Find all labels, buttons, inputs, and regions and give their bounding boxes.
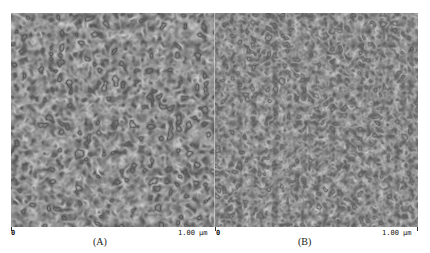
- micrograph-b: [215, 13, 418, 227]
- axis-end-label-b: 1.00 µm: [382, 229, 412, 237]
- micrograph-a: [11, 13, 215, 227]
- panel-label-b: (B): [298, 236, 311, 247]
- axis-tick-b-end: [417, 227, 418, 231]
- axis-start-label-a: 0: [11, 229, 15, 237]
- panel-label-a: (A): [93, 236, 107, 247]
- axis-start-label-b: 0: [216, 229, 220, 237]
- axis-end-label-a: 1.00 µm: [178, 229, 208, 237]
